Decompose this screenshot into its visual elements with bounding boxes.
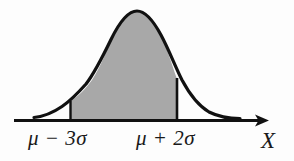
- shaded-area-region: [70, 11, 177, 120]
- x-axis-label: X: [261, 129, 276, 152]
- bell-curve-figure: μ − 3σ μ + 2σ X: [0, 0, 294, 161]
- right-boundary-label: μ + 2σ: [136, 128, 195, 149]
- left-boundary-label: μ − 3σ: [28, 128, 87, 149]
